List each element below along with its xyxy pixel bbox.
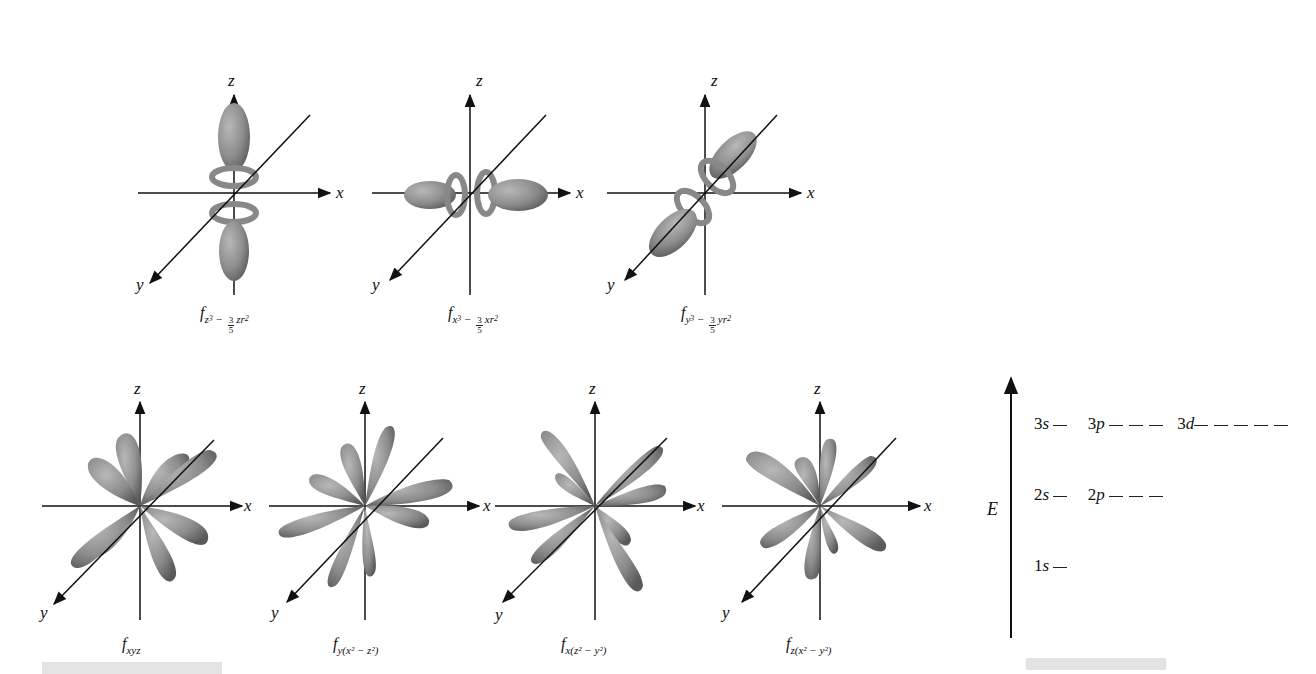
orbital-fxyz-drawing (30, 380, 260, 660)
energy-axis-label: E (987, 500, 998, 518)
z-axis-label: z (228, 72, 235, 89)
orbital-panel-fxyz: z x y fxyz (30, 380, 260, 660)
energy-row-n3: 3s 3p 3d (1034, 414, 1294, 434)
orbital-panel-fx-z2-y2: z x y fx(z² − y²) (495, 380, 745, 660)
level-2s: 2s (1034, 485, 1073, 504)
y-axis-label: y (136, 276, 144, 293)
caption-fxyz: fxyz (122, 636, 141, 652)
caption-fx-z2-y2: fx(z² − y²) (561, 636, 606, 652)
level-3p: 3p (1088, 414, 1169, 433)
caption-fy-x2-z2: fy(x² − z²) (333, 636, 378, 652)
energy-level-diagram: E 3s 3p 3d 2s 2p 1s (960, 360, 1316, 660)
y-axis-label: y (40, 604, 48, 621)
caption-placeholder-bar-left (42, 662, 222, 674)
level-2p: 2p (1088, 485, 1169, 504)
orbital-panel-fy-x2-z2: z x y fy(x² − z²) (265, 380, 515, 660)
y-axis-label: y (722, 604, 730, 621)
z-axis-label: z (359, 380, 366, 397)
level-3d: 3d (1177, 414, 1294, 433)
caption-fy3: fy3 − 35yr2 (681, 305, 731, 325)
level-1s: 1s (1034, 556, 1073, 575)
orbital-panel-fy3: z x y fy3 − 35yr2 (605, 65, 835, 335)
y-axis-label: y (372, 276, 380, 293)
x-axis-label: x (576, 184, 584, 201)
x-axis-label: x (244, 497, 252, 514)
energy-row-n2: 2s 2p (1034, 485, 1169, 505)
x-axis-label: x (336, 184, 344, 201)
energy-row-n1: 1s (1034, 556, 1073, 576)
z-axis-label: z (589, 380, 596, 397)
y-axis-label: y (607, 276, 615, 293)
z-axis-label: z (134, 380, 141, 397)
orbital-panel-fx3: z x y fx3 − 35xr2 (370, 65, 600, 335)
caption-placeholder-bar-right (1026, 658, 1166, 670)
x-axis-label: x (807, 184, 815, 201)
level-3s: 3s (1034, 414, 1073, 433)
caption-fz3: fz3 − 35zr2 (200, 305, 249, 325)
caption-fx3: fx3 − 35xr2 (448, 305, 498, 325)
orbital-panel-fz-x2-y2: z x y fz(x² − y²) (720, 380, 960, 660)
y-axis-label: y (495, 606, 503, 623)
caption-fz-x2-y2: fz(x² − y²) (786, 636, 831, 652)
x-axis-label: x (924, 497, 932, 514)
orbital-fy3-drawing (605, 65, 835, 335)
z-axis-label: z (711, 72, 718, 89)
y-axis-label: y (271, 604, 279, 621)
z-axis-label: z (814, 380, 821, 397)
orbital-fz3-drawing (130, 65, 360, 335)
x-axis-label: x (697, 497, 705, 514)
orbital-fx-z2-y2-drawing (495, 380, 745, 660)
orbital-fz-x2-y2-drawing (720, 380, 960, 660)
orbital-panel-fz3: z x y fz3 − 35zr2 (130, 65, 360, 335)
z-axis-label: z (476, 72, 483, 89)
orbital-fx3-drawing (370, 65, 600, 335)
x-axis-label: x (483, 497, 491, 514)
orbital-fy-x2-z2-drawing (265, 380, 515, 660)
